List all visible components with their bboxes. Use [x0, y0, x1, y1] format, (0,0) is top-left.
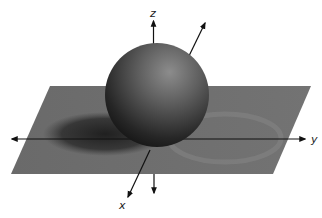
z-axis-label: z: [149, 7, 156, 20]
sphere: [105, 43, 209, 147]
sphere-plane-diagram: z y x: [0, 0, 322, 218]
y-axis-label: y: [310, 133, 318, 146]
x-axis-label: x: [118, 199, 126, 212]
x-axis-negative: [188, 23, 205, 58]
